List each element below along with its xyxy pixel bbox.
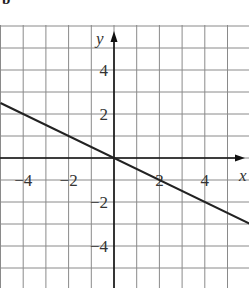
y-tick-label: −4 — [90, 237, 109, 256]
data-series-line — [1, 103, 250, 224]
x-axis-label: x — [238, 166, 247, 185]
x-tick-label: −4 — [14, 171, 33, 190]
x-tick-label: −2 — [60, 171, 78, 190]
y-axis-label: y — [94, 29, 104, 48]
grid-lines — [0, 25, 249, 288]
tick-labels: xy−4−22442−2−4 — [14, 29, 247, 256]
y-tick-label: −2 — [90, 193, 108, 212]
x-axis-arrow-icon — [235, 155, 245, 162]
data-line — [1, 103, 250, 224]
coordinate-plane: xy−4−22442−2−4 — [0, 0, 249, 288]
x-tick-label: 4 — [201, 171, 210, 190]
y-axis-arrow-icon — [111, 31, 118, 42]
y-tick-label: 2 — [100, 105, 109, 124]
part-label: b — [2, 0, 10, 8]
y-tick-label: 4 — [100, 61, 109, 80]
line-graph-figure: b xy−4−22442−2−4 — [0, 0, 249, 288]
